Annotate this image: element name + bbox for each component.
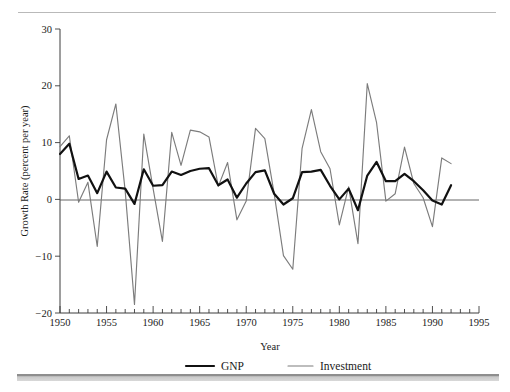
y-tick-label: 10 — [42, 137, 53, 148]
y-tick-label: −10 — [36, 251, 52, 262]
x-axis: 1950195519601965197019751980198519901995… — [50, 306, 490, 352]
y-axis: −20−100102030 Growth Rate (percent per y… — [19, 24, 60, 319]
y-tick-label: 0 — [47, 194, 52, 205]
figure-root: −20−100102030 Growth Rate (percent per y… — [0, 0, 510, 392]
x-axis-minor-ticks — [69, 309, 469, 313]
x-tick-label: 1985 — [375, 317, 396, 328]
y-tick-label: 20 — [42, 80, 53, 91]
x-tick-label: 1955 — [96, 317, 117, 328]
legend-entry-gnp: GNP — [186, 360, 244, 372]
growth-rate-line-chart: −20−100102030 Growth Rate (percent per y… — [0, 0, 510, 392]
legend-entry-investment: Investment — [288, 360, 372, 372]
x-tick-label: 1970 — [236, 317, 257, 328]
x-axis-title: Year — [260, 341, 280, 352]
x-axis-tick-labels: 1950195519601965197019751980198519901995 — [50, 317, 490, 328]
bottom-decorative-bar — [17, 374, 499, 381]
y-axis-tick-labels: −20−100102030 — [36, 24, 52, 319]
plot-area — [60, 84, 451, 305]
x-tick-label: 1975 — [282, 317, 303, 328]
x-tick-label: 1990 — [422, 317, 443, 328]
series-line-investment — [60, 84, 451, 305]
legend-label-gnp: GNP — [221, 360, 244, 372]
x-tick-label: 1965 — [189, 317, 210, 328]
x-axis-major-ticks — [60, 306, 479, 313]
x-tick-label: 1980 — [329, 317, 350, 328]
legend-label-investment: Investment — [320, 360, 372, 372]
x-tick-label: 1960 — [143, 317, 164, 328]
x-tick-label: 1950 — [50, 317, 71, 328]
y-axis-ticks — [55, 29, 60, 313]
x-tick-label: 1995 — [469, 317, 490, 328]
chart-legend: GNP Investment — [186, 360, 372, 372]
y-axis-title: Growth Rate (percent per year) — [19, 105, 31, 237]
y-tick-label: 30 — [42, 24, 53, 35]
